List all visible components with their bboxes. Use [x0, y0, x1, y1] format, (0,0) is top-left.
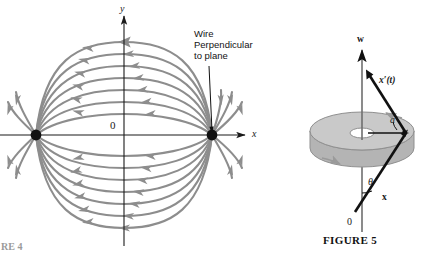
wire-callout-line-2: Perpendicular: [194, 39, 253, 51]
right-figure-panel: w x′(t) θ x a 0 FIGURE 5: [290, 0, 436, 254]
figure-caption: FIGURE 5: [323, 234, 377, 246]
figure-sheet: y x 0 Wire Perpendicular to plane RE 4: [0, 0, 436, 254]
left-wire-point: [31, 130, 42, 141]
w-vector-label: w: [357, 34, 364, 44]
disk-origin-label: 0: [347, 216, 352, 227]
origin-label: 0: [110, 119, 116, 131]
left-figure-caption-stub: RE 4: [1, 241, 22, 252]
theta-angle-label: θ: [368, 176, 373, 187]
position-vector-label: x: [382, 192, 387, 202]
y-axis-label: y: [120, 3, 124, 14]
wire-callout-line-1: Wire: [194, 28, 214, 40]
left-figure-panel: y x 0 Wire Perpendicular to plane RE 4: [0, 0, 290, 254]
velocity-vector-label: x′(t): [379, 75, 395, 85]
wire-callout-line-3: to plane: [194, 50, 228, 62]
right-wire-point: [207, 130, 218, 141]
radius-label: a: [390, 114, 395, 125]
x-axis-label: x: [252, 128, 256, 139]
